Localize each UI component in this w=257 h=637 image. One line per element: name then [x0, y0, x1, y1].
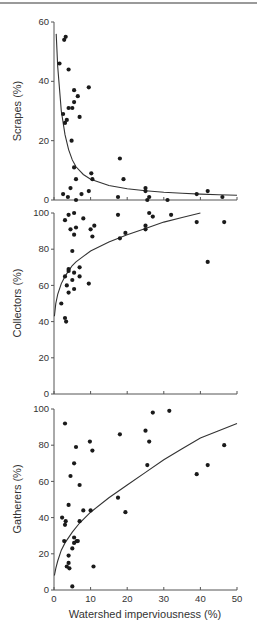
data-point — [167, 409, 171, 413]
data-point — [81, 508, 85, 512]
data-point — [65, 283, 69, 287]
data-point — [67, 566, 71, 570]
data-point — [118, 236, 122, 240]
y-tick-collectors-80: 80 — [38, 243, 49, 254]
data-point — [57, 61, 61, 65]
data-point — [63, 523, 67, 527]
data-point — [72, 271, 76, 275]
data-point — [81, 216, 85, 220]
data-point — [123, 510, 127, 514]
data-point — [74, 445, 78, 449]
data-point — [87, 282, 91, 286]
data-point — [68, 186, 72, 190]
data-point — [143, 224, 147, 228]
data-point — [121, 177, 125, 181]
x-tick-20: 20 — [122, 593, 133, 604]
data-point — [92, 224, 96, 228]
data-point — [67, 554, 71, 558]
data-point — [65, 118, 69, 122]
stacked-scatter-charts: Scrapes (%) Collectors (%) Gatherers (%)… — [0, 0, 257, 637]
y-tick-scrapes-40: 40 — [38, 75, 49, 86]
y-tick-gatherers-40: 40 — [38, 512, 49, 523]
data-point — [74, 177, 78, 181]
data-point — [63, 274, 67, 278]
data-point — [145, 198, 149, 202]
data-point — [70, 278, 74, 282]
data-point — [72, 100, 76, 104]
data-point — [63, 218, 67, 222]
data-point — [151, 215, 155, 219]
data-point — [72, 461, 76, 465]
data-point — [67, 67, 71, 71]
data-point — [87, 85, 91, 89]
y-axis-title-gatherers: Gatherers (%) — [11, 464, 23, 533]
y-tick-collectors-20: 20 — [38, 352, 49, 363]
y-tick-gatherers-0: 0 — [44, 584, 49, 595]
data-point — [78, 519, 82, 523]
data-point — [222, 443, 226, 447]
y-tick-gatherers-20: 20 — [38, 548, 49, 559]
data-point — [64, 320, 68, 324]
y-tick-gatherers-80: 80 — [38, 439, 49, 450]
data-point — [195, 220, 199, 224]
data-point — [72, 211, 76, 215]
data-point — [72, 535, 76, 539]
data-point — [72, 88, 76, 92]
data-point — [220, 195, 224, 199]
x-tick-10: 10 — [85, 593, 96, 604]
data-point — [60, 516, 64, 520]
x-tick-40: 40 — [195, 593, 206, 604]
plot-layer — [51, 22, 237, 590]
x-tick-30: 30 — [159, 593, 170, 604]
data-point — [61, 192, 65, 196]
data-point — [62, 539, 66, 543]
data-point — [59, 301, 63, 305]
data-point — [145, 463, 149, 467]
x-axis-title: Watershed imperviousness (%) — [69, 608, 221, 620]
data-point — [87, 189, 91, 193]
y-tick-collectors-60: 60 — [38, 280, 49, 291]
data-point — [70, 546, 74, 550]
data-point — [91, 564, 95, 568]
data-point — [78, 274, 82, 278]
data-point — [72, 287, 76, 291]
y-tick-scrapes-20: 20 — [38, 135, 49, 146]
data-point — [147, 440, 151, 444]
data-point — [67, 106, 71, 110]
data-point — [123, 231, 127, 235]
data-point — [64, 35, 68, 39]
data-point — [90, 177, 94, 181]
y-axis-title-scrapes: Scrapes (%) — [11, 81, 23, 142]
panel-gatherers — [51, 409, 237, 590]
y-tick-gatherers-60: 60 — [38, 476, 49, 487]
data-point — [147, 211, 151, 215]
data-point — [169, 213, 173, 217]
data-point — [74, 225, 78, 229]
panel-collectors — [51, 211, 237, 394]
y-tick-collectors-100: 100 — [33, 207, 49, 218]
data-point — [78, 115, 82, 119]
data-point — [63, 421, 67, 425]
data-point — [76, 539, 80, 543]
data-point — [165, 198, 169, 202]
data-point — [151, 411, 155, 415]
data-point — [70, 249, 74, 253]
data-point — [74, 198, 78, 202]
fit-curve — [56, 34, 237, 195]
panel-scrapes — [51, 22, 237, 202]
data-point — [116, 496, 120, 500]
data-point — [222, 220, 226, 224]
y-tick-collectors-0: 0 — [44, 388, 49, 399]
data-point — [67, 269, 71, 273]
y-tick-scrapes-0: 0 — [44, 194, 49, 205]
x-tick-0: 0 — [51, 593, 56, 604]
data-point — [118, 432, 122, 436]
data-point — [78, 483, 82, 487]
data-point — [70, 139, 74, 143]
data-point — [90, 449, 94, 453]
data-point — [143, 186, 147, 190]
data-point — [66, 195, 70, 199]
data-point — [67, 213, 71, 217]
data-point — [79, 192, 83, 196]
data-point — [143, 429, 147, 433]
